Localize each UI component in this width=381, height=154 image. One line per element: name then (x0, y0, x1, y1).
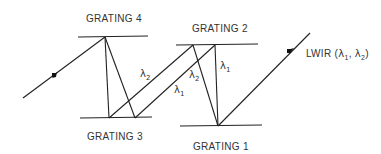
grating-3-surface (80, 117, 152, 118)
grating-3-label: GRATING 3 (87, 131, 143, 142)
grating-1-surface (180, 125, 262, 126)
grating-4-label: GRATING 4 (86, 13, 142, 24)
lambda1-label-b: λ1 (220, 60, 230, 74)
beam-lambda2-g3-g4 (105, 37, 135, 118)
lambda1-label-a: λ1 (174, 84, 184, 98)
grating-2-surface (176, 44, 258, 45)
grating-4-surface (78, 36, 148, 37)
grating-diagram: GRATING 4 GRATING 3 GRATING 2 GRATING 1 … (0, 0, 381, 154)
input-beam (218, 33, 310, 126)
output-arrow-head-icon (52, 73, 56, 77)
lwir-label: LWIR (λ1, λ2) (306, 48, 369, 61)
beam-lambda1-g1-g2 (215, 45, 218, 126)
grating-2-label: GRATING 2 (192, 23, 248, 34)
input-arrow-icon (287, 49, 291, 53)
beam-lambda2-g1-g2 (193, 45, 218, 126)
lambda2-label-a: λ2 (140, 68, 150, 82)
grating-1-label: GRATING 1 (193, 141, 249, 152)
output-beam (23, 37, 105, 98)
beam-lambda1-g3-g4 (105, 37, 109, 118)
lambda2-label-b: λ2 (189, 69, 199, 83)
